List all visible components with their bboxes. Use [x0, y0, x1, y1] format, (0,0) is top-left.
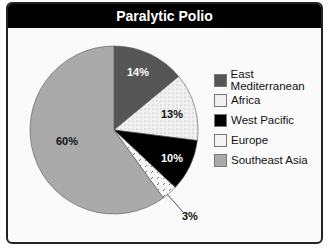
- swatch-icon: [214, 94, 227, 107]
- slice-label-southeast-asia: 60%: [56, 135, 78, 147]
- legend-item-africa: Africa: [214, 90, 327, 110]
- legend-item-europe: Europe: [214, 130, 327, 150]
- legend-item-west-pacific: West Pacific: [214, 110, 327, 130]
- slice-label-east-mediterranean: 14%: [127, 66, 149, 78]
- legend-item-east-mediterranean: East Mediterranean: [214, 70, 327, 90]
- slice-label-europe: 3%: [182, 210, 198, 222]
- swatch-icon: [214, 134, 227, 147]
- swatch-icon: [214, 154, 227, 167]
- swatch-icon: [214, 114, 227, 127]
- legend: East Mediterranean Africa West Pacific E…: [214, 70, 327, 170]
- slice-label-africa: 13%: [161, 108, 183, 120]
- legend-item-southeast-asia: Southeast Asia: [214, 150, 327, 170]
- swatch-icon: [214, 74, 227, 87]
- leader-line: [167, 194, 183, 212]
- slice-label-west-pacific: 10%: [161, 152, 183, 164]
